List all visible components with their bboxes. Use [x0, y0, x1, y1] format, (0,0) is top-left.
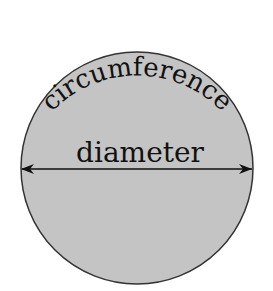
circle-diagram: diameter circumference [0, 0, 273, 291]
diameter-label: diameter [76, 136, 205, 169]
